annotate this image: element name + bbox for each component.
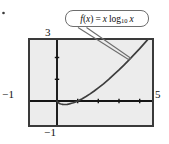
calculator-screen-frame (29, 39, 153, 126)
figure-graph-of-x-log10-x: f(x)=x log10 x 3 −1 5 −1 (0, 0, 169, 144)
x-axis-min-label: −1 (2, 89, 14, 100)
callout-log-word: log (109, 14, 121, 24)
callout-log-base: 10 (121, 17, 128, 24)
x-axis-max-label: 5 (155, 89, 161, 100)
callout-equals: = (93, 14, 102, 24)
callout-log-argument: x (130, 14, 134, 24)
callout-coefficient: x (103, 14, 107, 24)
callout-equation: f(x)=x log10 x (65, 10, 149, 27)
y-axis-max-label: 3 (45, 27, 51, 38)
y-axis-min-label: −1 (44, 127, 56, 138)
scan-speck-icon (2, 12, 5, 15)
